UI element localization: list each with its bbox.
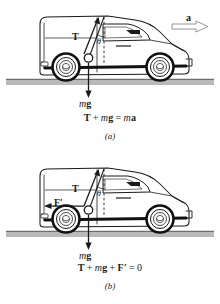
acceleration-label-a: a (186, 12, 191, 23)
tension-label-a: T (72, 31, 79, 42)
front-wheel (147, 54, 174, 81)
pendulum-bob (84, 54, 92, 62)
rear-wheel (53, 54, 80, 81)
pseudo-force-label-b: F′ (54, 197, 63, 208)
angle-label-a: θ (97, 37, 101, 46)
panel-b-scene (0, 152, 220, 252)
rear-wheel (53, 206, 80, 233)
equation-b: T+mg+F′=0 (0, 262, 220, 273)
panel-label-b: (b) (0, 281, 220, 291)
ground (6, 231, 214, 237)
panel-b: T θ mg F′ T+mg+F′=0 (b) (0, 152, 220, 304)
weight-label-b: mg (79, 250, 91, 261)
pendulum-bob (84, 206, 92, 214)
physics-figure: T θ mg a T+mg=ma (a) (0, 0, 220, 304)
ground (6, 79, 214, 85)
front-wheel (147, 206, 174, 233)
weight-label-a: mg (79, 98, 91, 109)
tension-label-b: T (72, 183, 79, 194)
angle-label-b: θ (97, 189, 101, 198)
equation-a: T+mg=ma (0, 112, 220, 123)
panel-label-a: (a) (0, 131, 220, 141)
panel-a: T θ mg a T+mg=ma (a) (0, 0, 220, 152)
